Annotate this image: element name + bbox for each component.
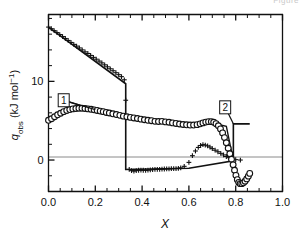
cross-marker <box>123 98 128 103</box>
circle-series-layer <box>46 105 253 186</box>
figure-container: Figure 0.00.20.40.60.81.0 010 12 X <box>0 0 301 241</box>
circle-marker <box>223 140 229 146</box>
chart-svg: 0.00.20.40.60.81.0 010 12 X qobs (kJ mol… <box>0 0 301 241</box>
label-2-text: 2 <box>222 102 228 113</box>
x-tick-label: 0.8 <box>228 196 243 208</box>
circle-marker <box>225 145 231 151</box>
circle-marker <box>230 162 236 168</box>
y-axis-close-paren: ) <box>8 70 20 74</box>
top-axis-ticks <box>49 15 283 21</box>
x-tick-label: 0.2 <box>88 196 103 208</box>
x-axis-tick-labels: 0.00.20.40.60.81.0 <box>41 196 290 208</box>
x-axis-ticks <box>49 186 283 192</box>
y-axis-units: (kJ mol <box>8 83 20 122</box>
label-1-text: 1 <box>61 95 67 106</box>
y-tick-label: 0 <box>37 154 43 166</box>
x-tick-label: 0.4 <box>134 196 149 208</box>
plot-frame <box>48 14 283 192</box>
cross-marker <box>203 143 208 148</box>
circle-marker <box>247 171 253 177</box>
y-axis-tick-labels: 010 <box>31 75 43 166</box>
y-axis-ticks <box>49 18 55 175</box>
cross-marker <box>187 160 192 165</box>
x-tick-label: 1.0 <box>275 196 290 208</box>
circle-marker <box>229 156 235 162</box>
y-axis-title: qobs (kJ mol−1) <box>7 70 25 140</box>
x-axis-title: X <box>160 217 170 231</box>
circle-marker <box>227 151 233 157</box>
clipped-header-text: Figure <box>273 0 299 5</box>
cross-marker <box>193 149 198 154</box>
x-tick-label: 0.0 <box>41 196 56 208</box>
svg-text:qobs (kJ mol−1): qobs (kJ mol−1) <box>7 70 25 140</box>
x-tick-label: 0.6 <box>181 196 196 208</box>
y-axis-subscript: obs <box>16 121 25 134</box>
y-tick-label: 10 <box>31 75 43 87</box>
cross-marker <box>238 158 243 163</box>
